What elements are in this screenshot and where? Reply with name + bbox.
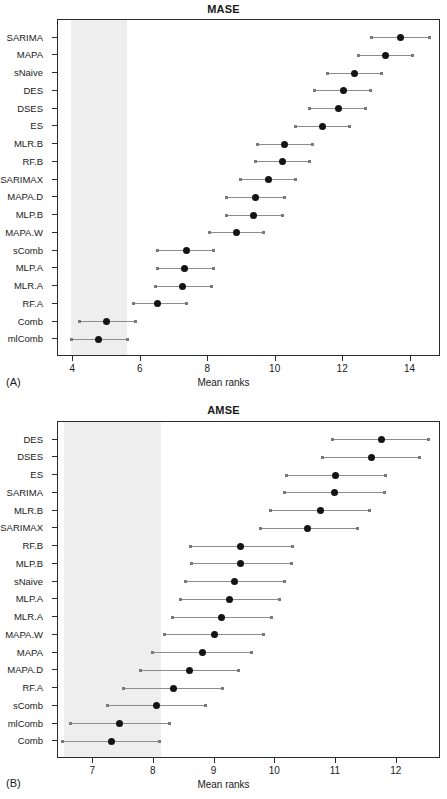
chart-title-mase: MASE: [0, 3, 447, 15]
interval-lower-cap: [106, 704, 109, 707]
y-axis-label-dses: DSES: [17, 102, 43, 113]
mean-rank-marker: [317, 507, 324, 514]
x-axis-tick-label: 12: [390, 765, 401, 776]
x-axis-tick: [410, 356, 411, 361]
x-axis-tick-label: 7: [89, 765, 95, 776]
interval-upper-cap: [384, 474, 387, 477]
interval-lower-cap: [69, 722, 72, 725]
interval-upper-cap: [369, 89, 372, 92]
interval-upper-cap: [294, 178, 297, 181]
interval-upper-cap: [418, 456, 421, 459]
y-axis-label-comb: Comb: [18, 315, 43, 326]
plot-area-mase: [57, 19, 440, 356]
mean-rank-marker: [368, 454, 375, 461]
interval-upper-cap: [212, 267, 215, 270]
x-axis-tick: [207, 356, 208, 361]
x-axis-title-amse: Mean ranks: [0, 779, 447, 790]
y-axis-label-mlcomb: mlComb: [8, 717, 43, 728]
y-axis-label-des: DES: [23, 433, 43, 444]
y-axis-label-mapa-w: MAPA.W: [5, 226, 43, 237]
y-axis-label-mapa-w: MAPA.W: [5, 628, 43, 639]
mean-rank-marker: [154, 300, 161, 307]
x-axis-tick: [153, 758, 154, 763]
interval-upper-cap: [278, 598, 281, 601]
interval-upper-cap: [204, 704, 207, 707]
interval-lower-cap: [190, 562, 193, 565]
interval-lower-cap: [139, 669, 142, 672]
y-axis-label-es: ES: [30, 469, 43, 480]
interval-upper-cap: [283, 580, 286, 583]
chart-title-amse: AMSE: [0, 404, 447, 416]
interval-upper-cap: [237, 669, 240, 672]
interval-lower-cap: [61, 740, 64, 743]
x-axis-tick: [275, 356, 276, 361]
interval-upper-cap: [383, 491, 386, 494]
y-axis-label-mlcomb: mlComb: [8, 333, 43, 344]
interval-upper-cap: [262, 231, 265, 234]
mean-rank-marker: [95, 336, 102, 343]
interval-lower-cap: [256, 143, 259, 146]
interval-lower-cap: [132, 302, 135, 305]
y-axis-label-mlr-a: MLR.A: [14, 280, 43, 291]
mean-rank-marker: [304, 525, 311, 532]
x-axis-tick: [214, 758, 215, 763]
y-axis-label-sarimax: SARIMAX: [0, 173, 43, 184]
interval-lower-cap: [326, 72, 329, 75]
y-axis-labels-amse: DESDSESESSARIMAMLR.BSARIMAXRF.BMLP.BsNai…: [0, 421, 53, 758]
interval-lower-cap: [154, 285, 157, 288]
panel-mase: MASE SARIMAMAPAsNaiveDESDSESESMLR.BRF.BS…: [0, 0, 447, 400]
interval-upper-cap: [221, 687, 224, 690]
mean-rank-marker: [226, 596, 233, 603]
interval-lower-cap: [294, 125, 297, 128]
interval-lower-cap: [269, 509, 272, 512]
interval-upper-cap: [411, 54, 414, 57]
interval-lower-cap: [179, 598, 182, 601]
x-axis-tick-label: 8: [150, 765, 156, 776]
interval-upper-cap: [270, 616, 273, 619]
x-axis-tick-label: 4: [69, 363, 75, 374]
interval-lower-cap: [370, 36, 373, 39]
interval-upper-cap: [368, 509, 371, 512]
interval-upper-cap: [283, 196, 286, 199]
interval-lower-cap: [225, 196, 228, 199]
plot-area-amse: [57, 421, 440, 758]
interval-lower-cap: [189, 545, 192, 548]
interval-lower-cap: [285, 474, 288, 477]
y-axis-label-mlr-b: MLR.B: [14, 504, 43, 515]
mean-rank-marker: [378, 436, 385, 443]
interval-upper-cap: [311, 143, 314, 146]
interval-upper-cap: [281, 214, 284, 217]
mean-rank-marker: [183, 247, 190, 254]
interval-lower-cap: [156, 267, 159, 270]
x-axis-tick-label: 14: [404, 363, 415, 374]
mean-rank-marker: [153, 702, 160, 709]
x-axis-tick: [72, 356, 73, 361]
interval-lower-cap: [78, 320, 81, 323]
x-axis-tick-label: 11: [330, 765, 340, 776]
mean-rank-marker: [116, 720, 123, 727]
interval-lower-cap: [313, 89, 316, 92]
y-axis-label-mapa: MAPA: [17, 49, 43, 60]
mean-rank-marker: [340, 87, 347, 94]
x-axis-tick-label: 10: [269, 363, 280, 374]
interval-upper-cap: [212, 249, 215, 252]
mean-rank-marker: [281, 141, 288, 148]
y-axis-labels-mase: SARIMAMAPAsNaiveDESDSESESMLR.BRF.BSARIMA…: [0, 19, 53, 356]
mean-rank-marker: [237, 560, 244, 567]
y-axis-label-mlr-b: MLR.B: [14, 138, 43, 149]
mean-rank-marker: [199, 649, 206, 656]
x-axis-tick-label: 6: [137, 363, 143, 374]
y-axis-label-scomb: sComb: [13, 244, 43, 255]
y-axis-label-snaive: sNaive: [14, 575, 43, 586]
y-axis-label-rf-b: RF.B: [22, 540, 43, 551]
interval-lower-cap: [357, 54, 360, 57]
y-axis-label-sarimax: SARIMAX: [0, 522, 43, 533]
x-axis-tick-label: 8: [204, 363, 210, 374]
panel-tag-b: (B): [6, 777, 21, 789]
mean-rank-marker: [252, 194, 259, 201]
y-axis-label-scomb: sComb: [13, 699, 43, 710]
y-axis-label-snaive: sNaive: [14, 67, 43, 78]
mean-rank-marker: [332, 472, 339, 479]
mean-rank-marker: [382, 52, 389, 59]
y-axis-label-mapa: MAPA: [17, 646, 43, 657]
